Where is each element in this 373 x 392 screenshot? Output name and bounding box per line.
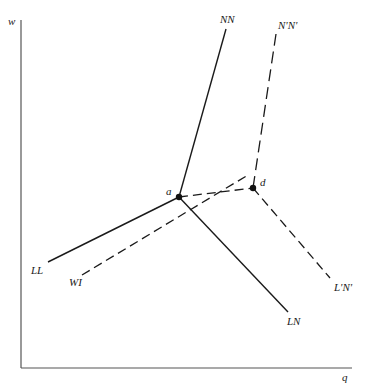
label-ll: LL (31, 265, 43, 276)
label-point-a: a (166, 186, 172, 197)
point-d-marker (250, 185, 256, 191)
label-ln: LN (287, 316, 300, 327)
diagram-svg (0, 0, 373, 392)
label-lpnp: L'N' (334, 282, 352, 293)
label-npnp: N'N' (278, 20, 297, 31)
curve-nn (179, 29, 226, 197)
diagram-canvas: w q NN LL LN N'N' L'N' WI a d (0, 0, 373, 392)
label-wi: WI (69, 277, 82, 288)
y-axis-label: w (8, 16, 15, 27)
point-a-marker (176, 194, 182, 200)
x-axis-label: q (342, 372, 348, 383)
curve-ll (48, 197, 179, 262)
curve-a-to-d (179, 188, 253, 197)
curve-npnp (253, 34, 276, 188)
curve-wi (82, 175, 248, 275)
label-nn: NN (220, 14, 235, 25)
label-point-d: d (260, 177, 266, 188)
curve-lpnp (253, 188, 330, 278)
curve-ln (179, 197, 288, 312)
